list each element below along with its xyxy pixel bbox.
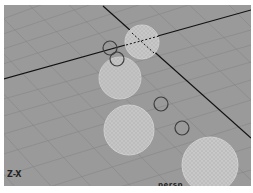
circle-4[interactable] bbox=[175, 121, 189, 135]
sphere-3-wireframe bbox=[104, 105, 154, 155]
sphere-2-wireframe bbox=[99, 57, 141, 99]
scene-canvas[interactable] bbox=[4, 5, 251, 186]
circle-3[interactable] bbox=[154, 97, 168, 111]
perspective-viewport[interactable]: Z-X persp bbox=[4, 5, 251, 186]
sphere-4-wireframe bbox=[182, 137, 238, 186]
spheres[interactable] bbox=[99, 25, 238, 186]
axis-indicator: Z-X bbox=[7, 170, 22, 179]
camera-name-label: persp bbox=[158, 181, 183, 186]
